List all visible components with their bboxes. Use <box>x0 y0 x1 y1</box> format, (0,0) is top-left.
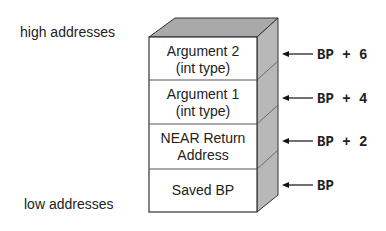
stack-top-face <box>149 18 278 37</box>
pointer-bp: BP <box>317 178 334 194</box>
pointer-bp-plus-2: BP + 2 <box>317 134 367 150</box>
arrow-icon <box>282 95 313 101</box>
cell-return-address-line1: NEAR Return <box>161 130 246 146</box>
pointer-bp-plus-6: BP + 6 <box>317 47 367 63</box>
arrow-icon <box>282 182 313 188</box>
arrow-icon <box>282 138 313 144</box>
arrow-icon <box>282 51 313 57</box>
pointer-bp-plus-4: BP + 4 <box>317 91 367 107</box>
cell-argument-1-line2: (int type) <box>176 103 230 119</box>
cell-argument-2-line2: (int type) <box>176 60 230 76</box>
stack-diagram: Argument 2 (int type) Argument 1 (int ty… <box>0 0 386 231</box>
cell-saved-bp: Saved BP <box>172 182 234 198</box>
cell-argument-2-line1: Argument 2 <box>167 43 240 59</box>
cell-argument-1-line1: Argument 1 <box>167 86 240 102</box>
cell-return-address-line2: Address <box>177 147 228 163</box>
